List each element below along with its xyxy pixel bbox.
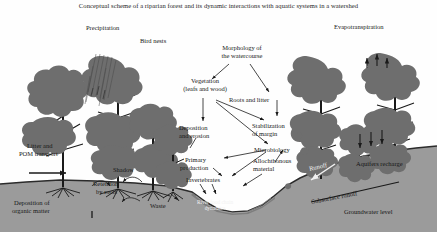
label-litter-pom-line2: POM transport [19,150,58,158]
label-river-food-chain-line2: dynamics [186,205,244,211]
label-precipitation: Precipitation [86,24,119,32]
label-allochthonous-line1: Allochthonous [253,157,291,165]
label-stabilization-line2: of margin [252,130,277,138]
label-aquifers-recharge: Aquifers recharge [356,160,403,168]
label-deposition-erosion-line1: Deposition [179,124,208,132]
label-primary-production-line1: Primary [185,156,206,164]
label-retention-line1: Retention [93,180,118,188]
label-litter-pom-line1: Litter and [27,142,52,150]
label-waste: Waste [150,202,166,210]
label-retention-line2: by roots [96,188,117,196]
label-morphology-line1: Morphology of [201,44,283,52]
label-deposition-organic-line1: Deposition of [14,199,50,207]
label-vegetation-line1: Vegetation [170,77,240,85]
label-primary-production-line2: production [180,164,208,172]
label-invertebrates: Invertebrates [186,176,220,184]
label-evapotranspiration: Evapotranspiration [334,23,383,31]
label-roots-and-litter: Roots and litter [229,96,269,104]
label-morphology-line2: the watercourse [201,52,283,60]
label-microbiology: Microbiology [254,146,290,154]
figure-title: Conceptual scheme of a riparian forest a… [0,2,437,9]
label-deposition-erosion-line2: and erosion [179,132,209,140]
label-groundwater-level: Groundwater level [344,208,393,216]
label-shadow: Shadow [113,166,134,174]
label-deposition-organic-line2: organic matter [12,207,50,215]
figure-root: Conceptual scheme of a riparian forest a… [0,0,437,232]
label-bird-nests: Bird nests [140,37,166,45]
label-stabilization-line1: Stabilization [252,122,285,130]
label-vegetation-line2: (leafs and wood) [170,85,240,93]
label-allochthonous-line2: material [253,165,274,173]
